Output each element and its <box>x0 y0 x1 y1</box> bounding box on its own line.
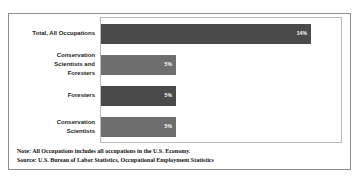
bar-row: 14% <box>101 24 341 44</box>
bar-value-label: 5% <box>165 62 176 67</box>
note-line: Note: All Occupations includes all occup… <box>17 147 337 156</box>
plot-area: 14%5%5%5% <box>100 17 342 143</box>
source-line: Source: U.S. Bureau of Labor Statistics,… <box>17 156 337 165</box>
chart-figure: 14%5%5%5% Total, All OccupationsConserva… <box>8 13 351 170</box>
bar: 5% <box>101 117 176 137</box>
bars-layer: 14%5%5%5% <box>101 18 341 142</box>
bar-row: 5% <box>101 86 341 106</box>
category-label: Foresters <box>0 91 95 100</box>
bar-value-label: 5% <box>165 93 176 98</box>
bar: 14% <box>101 24 311 44</box>
bar-row: 5% <box>101 55 341 75</box>
bar: 5% <box>101 55 176 75</box>
bar-value-label: 5% <box>165 124 176 129</box>
category-label: Conservation Scientists and Foresters <box>0 51 95 78</box>
chart-notes: Note: All Occupations includes all occup… <box>17 147 337 166</box>
category-label: Total, All Occupations <box>0 29 95 38</box>
bar-row: 5% <box>101 117 341 137</box>
bar: 5% <box>101 86 176 106</box>
bar-value-label: 14% <box>297 31 311 36</box>
category-label: Conservation Scientists <box>0 118 95 136</box>
